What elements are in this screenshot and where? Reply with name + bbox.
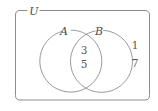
set-a-label: A (59, 25, 68, 38)
venn-diagram-figure: A B U 3 5 1 7 (0, 0, 158, 111)
venn-diagram-canvas: A B U 3 5 1 7 (0, 0, 158, 111)
outside-element-1: 1 (132, 39, 139, 51)
set-b-label: B (94, 25, 103, 38)
universe-label: U (29, 5, 39, 18)
outside-element-2: 7 (132, 57, 139, 69)
intersection-element-1: 3 (81, 44, 88, 56)
intersection-element-2: 5 (81, 58, 88, 70)
